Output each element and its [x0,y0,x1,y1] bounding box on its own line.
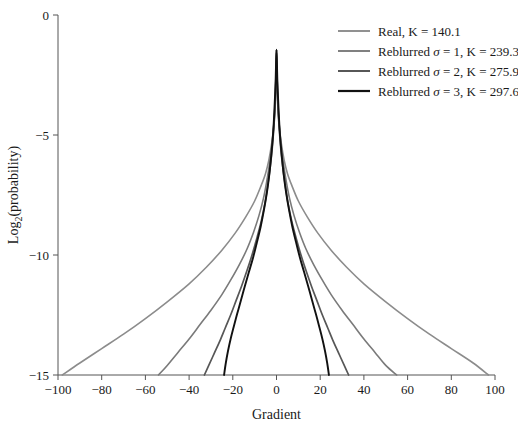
legend-label: Reblurred σ = 3, K = 297.6 [378,84,518,99]
y-tick-label: 0 [43,8,50,23]
x-tick-label: −100 [45,382,72,397]
x-tick-label: −80 [92,382,112,397]
x-tick-label: −40 [179,382,199,397]
x-tick-label: −20 [223,382,243,397]
y-axis-label: Log2(probability) [6,146,24,245]
legend: Real, K = 140.1Reblurred σ = 1, K = 239.… [338,24,518,99]
y-tick-label: −15 [29,368,49,383]
x-tick-label: 100 [485,382,505,397]
x-axis-ticks [58,375,495,380]
x-axis-label: Gradient [252,407,301,422]
curve-series [204,50,348,375]
x-tick-label: 20 [314,382,327,397]
y-tick-label: −10 [29,248,49,263]
y-axis-ticks [53,15,58,375]
y-axis-tick-labels: 0−5−10−15 [29,8,49,383]
legend-label: Real, K = 140.1 [378,24,461,39]
x-tick-label: 40 [357,382,370,397]
x-axis-tick-labels: −100−80−60−40−20020406080100 [45,382,505,397]
x-tick-label: 60 [401,382,414,397]
curve-series [224,50,329,375]
legend-label: Reblurred σ = 1, K = 239.3 [378,44,518,59]
legend-label: Reblurred σ = 2, K = 275.9 [378,64,518,79]
chart-figure: −100−80−60−40−20020406080100 0−5−10−15 G… [0,0,518,428]
y-axis-label-text: Log2(probability) [6,146,24,245]
y-tick-label: −5 [35,128,49,143]
data-curves [62,50,488,375]
gradient-log-probability-chart: −100−80−60−40−20020406080100 0−5−10−15 G… [0,0,518,428]
x-tick-label: 80 [445,382,458,397]
y-label-base: Log [6,222,21,245]
x-tick-label: −60 [135,382,155,397]
y-label-rest: (probability) [6,146,22,217]
x-tick-label: 0 [273,382,280,397]
